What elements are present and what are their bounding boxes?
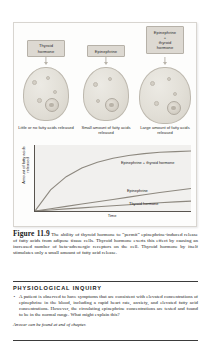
lipid-droplet [173, 92, 177, 96]
lipid-droplet [167, 77, 171, 81]
cell-column-thyroid-hormone: Thyroid hormone [16, 23, 76, 130]
cell-nucleus-icon [105, 98, 119, 112]
y-axis-label: Amount of fatty acids released [22, 139, 30, 191]
lipid-droplet [46, 76, 50, 80]
lipid-droplet [150, 81, 155, 86]
arrow-down-icon-1 [16, 57, 76, 66]
hormone-box-wrap-2: Epinephrine [76, 23, 136, 57]
cell-nucleus-icon [167, 101, 181, 115]
hormone-label-line1: Epinephrine [91, 49, 121, 54]
inquiry-question-item: • A patient is observed to have symptoms… [13, 294, 198, 318]
adipose-cell-icon-1 [23, 67, 69, 121]
lipid-droplet [93, 82, 98, 87]
hormone-label-line4: hormone [150, 45, 180, 50]
adipose-cell-wrap-2 [76, 66, 136, 124]
hormone-box-wrap-1: Thyroid hormone [16, 23, 76, 57]
adipose-cell-wrap-3 [135, 66, 195, 124]
adipose-cell-icon-2 [83, 67, 129, 121]
arrow-head [44, 62, 48, 65]
lipid-droplet [96, 99, 100, 103]
figure-page: Thyroid hormone [0, 0, 210, 350]
hormone-label-line2: hormone [31, 49, 61, 54]
lipid-droplet [37, 98, 42, 103]
adipose-cell-wrap-1 [16, 66, 76, 124]
nucleolus-icon [49, 103, 54, 108]
cell-column-epinephrine: Epinephrine [76, 23, 136, 135]
series-label-epinephrine-thyroid: Epinephrine + thyroid hormone [121, 161, 174, 166]
hormone-label-box-3: Epinephrine + thyroid hormone [146, 26, 184, 53]
cell-nucleus-icon [45, 98, 59, 112]
series-line-thyroid-hormone [35, 201, 191, 211]
cell-column-epinephrine-plus-thyroid: Epinephrine + thyroid hormone [135, 23, 195, 135]
series-label-thyroid-hormone: Thyroid hormone [129, 202, 158, 207]
lipid-droplet [154, 101, 159, 106]
inquiry-title: PHYSIOLOGICAL INQUIRY [13, 285, 198, 291]
hormone-label-box-1: Thyroid hormone [27, 40, 65, 57]
chart-svg [35, 145, 191, 211]
inquiry-question-text: A patient is observed to have symptoms t… [19, 294, 198, 317]
x-axis-label: Time [34, 213, 190, 218]
physiological-inquiry-box: PHYSIOLOGICAL INQUIRY • A patient is obs… [13, 281, 198, 341]
nucleolus-icon [109, 103, 114, 108]
cell-caption-3: Large amount of fatty acids released [135, 125, 195, 135]
arrow-down-icon-3 [135, 57, 195, 66]
cells-row: Thyroid hormone [14, 23, 196, 140]
figure-caption: Figure 11.9 The ability of thyroid hormo… [13, 231, 198, 256]
hormone-label-box-2: Epinephrine [87, 45, 125, 57]
plot-area: Epinephrine + thyroid hormone Epinephrin… [34, 145, 191, 212]
cell-caption-1: Little or no fatty acids released [16, 125, 76, 130]
lipid-droplet [53, 90, 57, 94]
arrow-head [163, 62, 167, 65]
arrow-head [104, 62, 108, 65]
series-line-epinephrine [35, 189, 191, 211]
illustration-panel: Thyroid hormone [13, 22, 197, 227]
line-chart: Amount of fatty acids released Epinephri… [20, 143, 192, 223]
cell-caption-2: Small amount of fatty acids released [76, 125, 136, 135]
series-label-epinephrine: Epinephrine [127, 189, 148, 194]
lipid-droplet [32, 80, 37, 85]
arrow-down-icon-2 [76, 57, 136, 66]
adipose-cell-icon-3 [139, 67, 191, 124]
bullet-icon: • [14, 294, 16, 300]
lipid-droplet [108, 77, 112, 81]
hormone-box-wrap-3: Epinephrine + thyroid hormone [135, 23, 195, 57]
nucleolus-icon [171, 106, 176, 111]
inquiry-answer-note: Answer can be found at end of chapter. [13, 322, 198, 327]
figure-number: Figure 11.9 [13, 229, 50, 238]
